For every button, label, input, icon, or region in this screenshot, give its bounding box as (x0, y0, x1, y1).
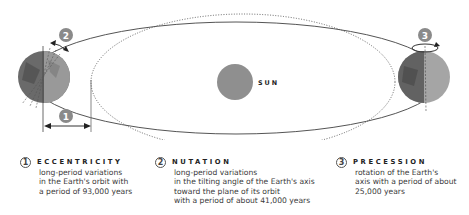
caption-title: ECCENTRICITY (37, 158, 123, 167)
caption-line: in the tilting angle of the Earth's axis (155, 177, 315, 186)
caption-line: a period of 93,000 years (20, 187, 132, 196)
caption-line: in the Earth's orbit with (20, 177, 132, 186)
svg-text:3: 3 (422, 31, 428, 41)
caption-line: axis with a period of about (336, 177, 456, 186)
caption-precession: 3 PRECESSION rotation of the Earth's axi… (336, 157, 456, 196)
orbit-diagram: 2 1 3 (0, 0, 469, 140)
caption-line: long-period variations (155, 168, 315, 177)
caption-line: 25,000 years (336, 187, 456, 196)
sun (217, 64, 253, 100)
caption-nutation: 2 NUTATION long-period variations in the… (155, 157, 315, 205)
caption-line: with a period of about 41,000 years (155, 196, 315, 205)
caption-line: toward the plane of its orbit (155, 187, 315, 196)
svg-text:1: 1 (63, 112, 69, 122)
caption-line: long-period variations (20, 168, 132, 177)
caption-line: rotation of the Earth's (336, 168, 456, 177)
sun-label: SUN (258, 79, 279, 87)
earth-right (398, 46, 450, 112)
number-1-icon: 1 (20, 157, 31, 168)
number-2-icon: 2 (155, 157, 166, 168)
caption-eccentricity: 1 ECCENTRICITY long-period variations in… (20, 157, 132, 196)
caption-title: PRECESSION (353, 158, 427, 167)
number-3-icon: 3 (336, 157, 347, 168)
svg-text:2: 2 (63, 31, 69, 41)
caption-title: NUTATION (172, 158, 231, 167)
